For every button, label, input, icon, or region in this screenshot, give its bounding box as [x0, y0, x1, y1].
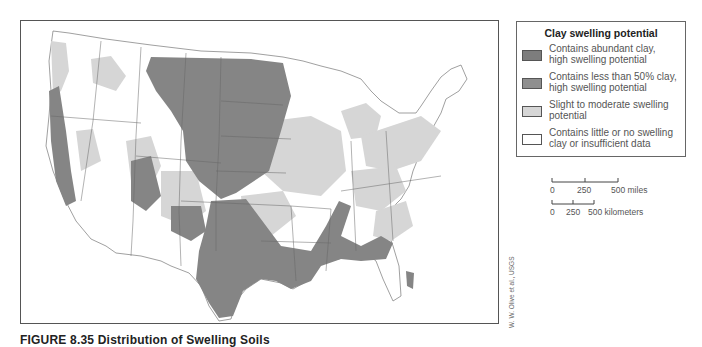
legend-label: Contains abundant clay, high swelling po… — [549, 44, 684, 65]
credit-text: W. W. Olive et al., USGS — [508, 256, 515, 328]
legend-item-abundant-clay: Contains abundant clay, high swelling po… — [522, 44, 682, 70]
us-swelling-soils-map — [21, 21, 499, 324]
legend: Clay swelling potential Contains abundan… — [516, 21, 686, 157]
legend-label-line: Contains less than 50% clay, — [549, 72, 684, 83]
legend-label-line: Slight to moderate swelling — [549, 100, 684, 111]
legend-swatch-less-than-50-clay — [522, 78, 542, 89]
legend-swatch-little-or-none — [522, 134, 542, 145]
scale-km-500: 500 kilometers — [588, 207, 643, 217]
legend-label: Slight to moderate swelling potential — [549, 100, 684, 121]
map-frame — [20, 20, 499, 324]
scale-miles-0: 0 — [550, 185, 555, 195]
legend-swatch-abundant-clay — [522, 50, 542, 61]
scale-miles-500: 500 miles — [611, 185, 647, 195]
legend-label-line: clay or insufficient data — [549, 139, 684, 150]
legend-label-line: potential — [549, 111, 684, 122]
legend-label-line: Contains abundant clay, — [549, 44, 684, 55]
map-credit: W. W. Olive et al., USGS — [505, 248, 519, 328]
legend-title: Clay swelling potential — [517, 27, 685, 39]
legend-item-little-or-none: Contains little or no swelling clay or i… — [522, 128, 682, 154]
legend-swatch-slight-moderate — [522, 106, 542, 117]
legend-label: Contains little or no swelling clay or i… — [549, 128, 684, 149]
legend-item-less-than-50-clay: Contains less than 50% clay, high swelli… — [522, 72, 682, 98]
figure-caption: FIGURE 8.35 Distribution of Swelling Soi… — [20, 333, 270, 347]
legend-label: Contains less than 50% clay, high swelli… — [549, 72, 684, 93]
legend-label-line: Contains little or no swelling — [549, 128, 684, 139]
scale-km-0: 0 — [550, 207, 555, 217]
legend-item-slight-moderate: Slight to moderate swelling potential — [522, 100, 682, 126]
legend-label-line: high swelling potential — [549, 55, 684, 66]
scale-km-250: 250 — [566, 207, 580, 217]
legend-label-line: high swelling potential — [549, 83, 684, 94]
scale-miles-250: 250 — [577, 185, 591, 195]
scale-bar: 0 250 500 miles 0 250 500 kilometers — [551, 176, 671, 220]
